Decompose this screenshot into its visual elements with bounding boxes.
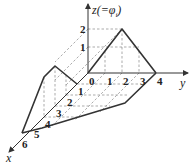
y-tick-3: 3 [140, 75, 146, 87]
x-axis-label: x [5, 151, 12, 164]
y-axis-label: y [179, 76, 186, 90]
x-axis [9, 73, 88, 152]
x-tick-1: 1 [78, 85, 84, 97]
z-tick-1: 1 [80, 41, 86, 53]
x-tick-6: 6 [22, 138, 28, 150]
x-tick-5: 5 [34, 128, 40, 140]
y-tick-1: 1 [107, 75, 113, 87]
z-tick-2: 2 [80, 23, 86, 35]
y-tick-2: 2 [123, 75, 129, 87]
y-tick-4: 4 [157, 75, 163, 87]
x-tick-4: 4 [45, 118, 51, 130]
y-tick-0: 0 [89, 75, 95, 87]
x-tick-3: 3 [56, 107, 62, 119]
z-axis-label: z(=φi) [91, 3, 121, 19]
pyramid-function-diagram: 0 1 2 3 4 1 2 1 2 3 4 5 6 y x z(=φi) [0, 0, 191, 164]
x-tick-2: 2 [67, 96, 73, 108]
